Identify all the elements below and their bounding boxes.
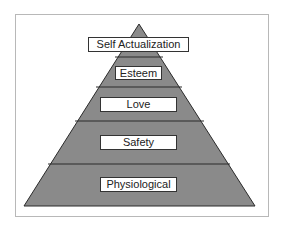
level-label-self-actualization: Self Actualization <box>88 37 189 52</box>
level-label-love: Love <box>100 97 177 112</box>
level-label-safety: Safety <box>100 135 177 150</box>
pyramid <box>0 0 284 228</box>
level-label-physiological: Physiological <box>100 177 177 192</box>
level-label-esteem: Esteem <box>115 66 162 80</box>
